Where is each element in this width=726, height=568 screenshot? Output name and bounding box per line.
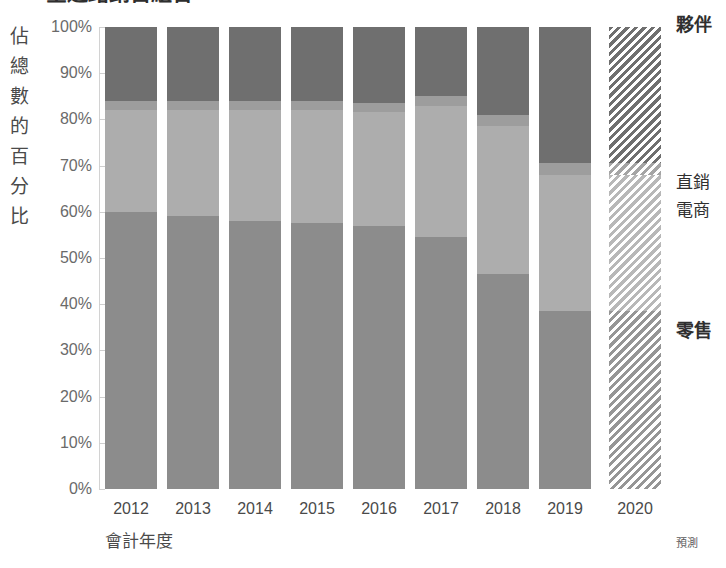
y-axis-title-char: 分 bbox=[4, 172, 34, 202]
y-axis-tick-label: 0% bbox=[34, 481, 92, 497]
y-axis-tick-label: 90% bbox=[34, 65, 92, 81]
bar-segment-retail[interactable] bbox=[167, 216, 219, 489]
x-axis-tick-label: 2015 bbox=[291, 500, 343, 518]
y-axis-tick-labels: 100%90%80%70%60%50%40%30%20%10%0% bbox=[34, 0, 92, 568]
x-axis-tick-label: 2019 bbox=[539, 500, 591, 518]
bar[interactable] bbox=[415, 27, 467, 489]
y-axis-tick-label: 30% bbox=[34, 342, 92, 358]
bar-segment-direct[interactable] bbox=[353, 103, 405, 112]
x-axis-tick-label: 2014 bbox=[229, 500, 281, 518]
bar-segment-retail[interactable] bbox=[477, 274, 529, 489]
y-axis-tick-label: 20% bbox=[34, 389, 92, 405]
y-axis-title-char: 總 bbox=[4, 52, 34, 82]
y-axis-tick-label: 10% bbox=[34, 435, 92, 451]
legend-item-ecom[interactable]: 電商 bbox=[676, 200, 710, 222]
chart-root: 全通路銷售組合 佔總數的百分比 100%90%80%70%60%50%40%30… bbox=[0, 0, 726, 568]
bar[interactable] bbox=[229, 27, 281, 489]
bar-segment-direct[interactable] bbox=[415, 96, 467, 105]
bar-segment-ecom[interactable] bbox=[229, 110, 281, 221]
bar-segment-ecom[interactable] bbox=[609, 175, 661, 311]
bar-segment-partner[interactable] bbox=[477, 27, 529, 115]
y-axis-title-char: 百 bbox=[4, 142, 34, 172]
y-axis-title-char: 比 bbox=[4, 202, 34, 232]
y-axis-title-char: 數 bbox=[4, 82, 34, 112]
bar-segment-ecom[interactable] bbox=[539, 175, 591, 311]
x-axis-tick-label: 2018 bbox=[477, 500, 529, 518]
bar-segment-partner[interactable] bbox=[539, 27, 591, 163]
x-axis-tick-label: 2016 bbox=[353, 500, 405, 518]
forecast-note: 預測 bbox=[676, 534, 698, 550]
y-axis-tick-label: 80% bbox=[34, 111, 92, 127]
bar[interactable] bbox=[105, 27, 157, 489]
x-axis-tick-label: 2013 bbox=[167, 500, 219, 518]
bar-segment-ecom[interactable] bbox=[105, 110, 157, 212]
bar-segment-partner[interactable] bbox=[609, 27, 661, 163]
bar-segment-direct[interactable] bbox=[229, 101, 281, 110]
bar-segment-retail[interactable] bbox=[539, 311, 591, 489]
bar-segment-retail[interactable] bbox=[291, 223, 343, 489]
bar-segment-ecom[interactable] bbox=[167, 110, 219, 216]
y-axis-title-char: 的 bbox=[4, 112, 34, 142]
y-axis-tickmark bbox=[99, 489, 105, 490]
plot-area bbox=[105, 27, 665, 489]
y-axis-tick-label: 40% bbox=[34, 296, 92, 312]
bar-segment-direct[interactable] bbox=[291, 101, 343, 110]
bar[interactable] bbox=[539, 27, 591, 489]
bar-segment-direct[interactable] bbox=[477, 115, 529, 127]
bar-segment-direct[interactable] bbox=[167, 101, 219, 110]
x-axis-tick-label: 2017 bbox=[415, 500, 467, 518]
y-axis-tick-label: 70% bbox=[34, 158, 92, 174]
y-axis-tick-label: 100% bbox=[34, 19, 92, 35]
bar-segment-ecom[interactable] bbox=[477, 126, 529, 274]
bar-segment-retail[interactable] bbox=[105, 212, 157, 489]
bar-forecast[interactable] bbox=[609, 27, 661, 489]
bar-segment-partner[interactable] bbox=[353, 27, 405, 103]
x-axis-title: 會計年度 bbox=[105, 527, 173, 552]
bar[interactable] bbox=[167, 27, 219, 489]
y-axis-title: 佔總數的百分比 bbox=[4, 22, 34, 232]
legend-item-direct[interactable]: 直銷 bbox=[676, 172, 710, 194]
legend-item-retail[interactable]: 零售 bbox=[676, 320, 712, 342]
bar-segment-direct[interactable] bbox=[609, 163, 661, 175]
x-axis-tick-label: 2020 bbox=[609, 500, 661, 518]
bar-segment-ecom[interactable] bbox=[415, 106, 467, 238]
bar-segment-ecom[interactable] bbox=[353, 112, 405, 225]
bar-segment-retail[interactable] bbox=[229, 221, 281, 489]
bar-segment-retail[interactable] bbox=[353, 226, 405, 489]
y-axis-title-char: 佔 bbox=[4, 22, 34, 52]
bar-segment-ecom[interactable] bbox=[291, 110, 343, 223]
bar-segment-direct[interactable] bbox=[539, 163, 591, 175]
bar-segment-partner[interactable] bbox=[229, 27, 281, 101]
bar[interactable] bbox=[291, 27, 343, 489]
y-axis-tick-label: 50% bbox=[34, 250, 92, 266]
bar-segment-partner[interactable] bbox=[105, 27, 157, 101]
y-axis-tick-label: 60% bbox=[34, 204, 92, 220]
bar[interactable] bbox=[477, 27, 529, 489]
bar-segment-retail[interactable] bbox=[609, 311, 661, 489]
bar-segment-partner[interactable] bbox=[291, 27, 343, 101]
bar-segment-partner[interactable] bbox=[415, 27, 467, 96]
bar-segment-direct[interactable] bbox=[105, 101, 157, 110]
bar-segment-retail[interactable] bbox=[415, 237, 467, 489]
legend-item-partner[interactable]: 夥伴 bbox=[676, 14, 712, 36]
bar[interactable] bbox=[353, 27, 405, 489]
bar-segment-partner[interactable] bbox=[167, 27, 219, 101]
x-axis-tick-label: 2012 bbox=[105, 500, 157, 518]
